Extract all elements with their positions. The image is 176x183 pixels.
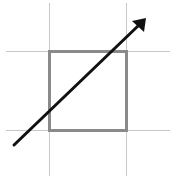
diagram-canvas [0, 0, 176, 183]
grid-lines [6, 3, 170, 176]
diagram-svg [0, 0, 176, 183]
arrow-shaft [14, 26, 138, 145]
square [50, 52, 127, 131]
